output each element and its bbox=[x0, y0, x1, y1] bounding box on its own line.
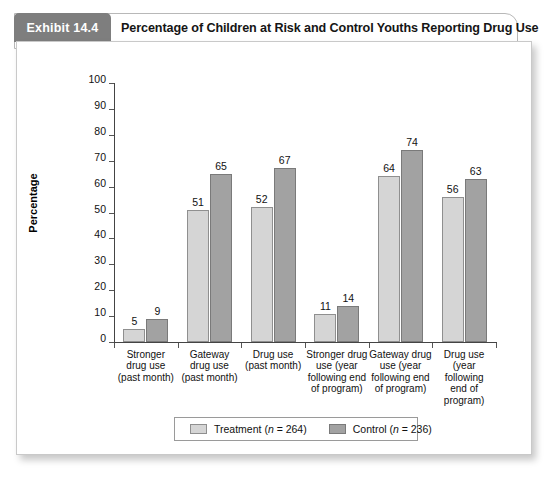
bar-value-label: 74 bbox=[397, 136, 427, 148]
x-category-label: Gatewaydrug use(past month) bbox=[178, 349, 242, 383]
x-category-label-line: Gateway bbox=[178, 349, 242, 360]
y-tick bbox=[109, 109, 114, 110]
bar-value-label: 63 bbox=[461, 165, 491, 177]
x-tick bbox=[114, 343, 115, 348]
y-tick bbox=[109, 187, 114, 188]
x-tick bbox=[432, 343, 433, 348]
y-tick-label: 60 bbox=[76, 183, 106, 184]
y-tick bbox=[109, 83, 114, 84]
y-tick-label: 90 bbox=[76, 105, 106, 106]
x-category-label: Stronger druguse (yearfollowing endof pr… bbox=[305, 349, 369, 395]
y-tick-label: 70 bbox=[76, 157, 106, 158]
bar-control bbox=[210, 174, 232, 342]
x-category-label-line: Stronger bbox=[114, 349, 178, 360]
x-category-label-line: of program) bbox=[369, 383, 433, 394]
exhibit-title: Percentage of Children at Risk and Contr… bbox=[121, 13, 538, 42]
x-category-label-line: Drug use bbox=[241, 349, 305, 360]
x-tick bbox=[496, 343, 497, 348]
x-category-label-line: use (year bbox=[369, 360, 433, 371]
bar-value-label: 64 bbox=[374, 162, 404, 174]
bar-control bbox=[146, 319, 168, 342]
y-tick bbox=[109, 135, 114, 136]
y-axis-title: Percentage bbox=[27, 153, 39, 253]
exhibit-number-tab: Exhibit 14.4 bbox=[14, 13, 111, 42]
y-tick-label: 100 bbox=[76, 79, 106, 80]
bar-value-label: 51 bbox=[183, 196, 213, 208]
x-category-label: Drug use(year followingend ofprogram) bbox=[432, 349, 496, 406]
chart-legend: Treatment (n = 264) Control (n = 236) bbox=[174, 417, 418, 441]
x-category-label: Strongerdrug use(past month) bbox=[114, 349, 178, 383]
bar-value-label: 56 bbox=[438, 183, 468, 195]
x-category-label: Drug use(past month) bbox=[241, 349, 305, 372]
legend-label-control: Control (n = 236) bbox=[353, 423, 432, 435]
x-category-label-line: drug use bbox=[114, 360, 178, 371]
bar-value-label: 9 bbox=[142, 305, 172, 317]
bar-treatment bbox=[187, 210, 209, 342]
x-category-label-line: end of bbox=[432, 383, 496, 394]
x-category-label-line: (past month) bbox=[178, 372, 242, 383]
x-category-label-line: following end bbox=[369, 372, 433, 383]
plot-area: 0102030405060708090100 59516552671114647… bbox=[114, 83, 496, 342]
exhibit-card: Exhibit 14.4 Percentage of Children at R… bbox=[0, 0, 556, 486]
bar-treatment bbox=[378, 176, 400, 342]
y-tick bbox=[109, 290, 114, 291]
legend-swatch-control bbox=[329, 424, 346, 434]
exhibit-number-label: Exhibit 14.4 bbox=[27, 21, 99, 35]
bar-control bbox=[465, 179, 487, 342]
bar-treatment bbox=[251, 207, 273, 342]
x-tick bbox=[178, 343, 179, 348]
y-tick bbox=[109, 161, 114, 162]
y-tick bbox=[109, 316, 114, 317]
legend-label-treatment: Treatment (n = 264) bbox=[214, 423, 307, 435]
x-category-label-line: use (year bbox=[305, 360, 369, 371]
legend-swatch-treatment bbox=[190, 424, 207, 434]
bar-treatment bbox=[442, 197, 464, 342]
legend-item-treatment: Treatment (n = 264) bbox=[190, 423, 307, 435]
y-tick-label: 30 bbox=[76, 260, 106, 261]
y-tick-label: 10 bbox=[76, 312, 106, 313]
y-tick-label: 40 bbox=[76, 234, 106, 235]
y-tick-label: 80 bbox=[76, 131, 106, 132]
bar-value-label: 67 bbox=[270, 154, 300, 166]
x-tick bbox=[305, 343, 306, 348]
x-tick bbox=[369, 343, 370, 348]
x-category-label-line: following end bbox=[305, 372, 369, 383]
x-category-label-line: (past month) bbox=[114, 372, 178, 383]
bar-control bbox=[337, 306, 359, 342]
x-category-label-line: (past month) bbox=[241, 360, 305, 371]
x-category-label-line: program) bbox=[432, 395, 496, 406]
y-tick bbox=[109, 264, 114, 265]
y-tick-label: 0 bbox=[76, 338, 106, 339]
y-tick-label: 50 bbox=[76, 209, 106, 210]
y-tick-label: 20 bbox=[76, 286, 106, 287]
bar-chart: Percentage 0102030405060708090100 595165… bbox=[17, 42, 533, 456]
y-tick bbox=[109, 238, 114, 239]
y-axis-line bbox=[114, 83, 115, 343]
x-category-label-line: (year following bbox=[432, 360, 496, 383]
x-category-label-line: Drug use bbox=[432, 349, 496, 360]
bar-value-label: 14 bbox=[333, 292, 363, 304]
x-category-label-line: Stronger drug bbox=[305, 349, 369, 360]
bar-control bbox=[274, 168, 296, 342]
x-category-label: Gateway druguse (yearfollowing endof pro… bbox=[369, 349, 433, 395]
x-category-label-line: Gateway drug bbox=[369, 349, 433, 360]
bar-value-label: 5 bbox=[119, 315, 149, 327]
legend-item-control: Control (n = 236) bbox=[329, 423, 432, 435]
bar-treatment bbox=[314, 314, 336, 342]
x-category-label-line: drug use bbox=[178, 360, 242, 371]
x-category-label-line: of program) bbox=[305, 383, 369, 394]
bar-value-label: 65 bbox=[206, 160, 236, 172]
exhibit-body-panel: Percentage 0102030405060708090100 595165… bbox=[16, 41, 532, 455]
y-tick bbox=[109, 213, 114, 214]
bar-treatment bbox=[123, 329, 145, 342]
x-tick bbox=[241, 343, 242, 348]
bar-value-label: 52 bbox=[247, 193, 277, 205]
bar-control bbox=[401, 150, 423, 342]
